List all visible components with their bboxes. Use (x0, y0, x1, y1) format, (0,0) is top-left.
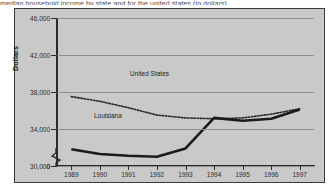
x-axis-tick (128, 166, 129, 170)
y-axis-tick-label: 38,000 (30, 89, 50, 96)
y-axis-origin-label: 0 (46, 163, 50, 170)
y-axis-tick (51, 166, 57, 167)
series-label-united-states: United States (130, 70, 169, 78)
x-axis-tick (157, 166, 158, 170)
y-axis-tick-label: 34,000 (30, 126, 50, 133)
cut-off-caption-text: median household income by state and for… (0, 0, 332, 5)
y-axis-tick (51, 92, 57, 93)
x-axis-tick (71, 166, 72, 170)
y-axis-title: Dollars (12, 46, 19, 71)
x-axis-tick-label: 1994 (207, 171, 221, 179)
x-axis-tick-label: 1997 (292, 171, 306, 179)
x-axis-tick-label: 1992 (150, 171, 164, 179)
y-axis-tick (51, 55, 57, 56)
y-axis-tick (51, 129, 57, 130)
chart-panel: 30,00034,00038,00042,00046,0000 Dollars … (14, 8, 325, 183)
x-axis-tick (243, 166, 244, 170)
x-axis-tick-label: 1990 (93, 171, 107, 179)
y-axis-tick-label: 42,000 (30, 52, 50, 59)
x-axis-tick-label: 1989 (64, 171, 78, 179)
chart-page: median household income by state and for… (0, 0, 332, 195)
y-axis-tick-label: 46,000 (30, 15, 50, 22)
gridline (57, 55, 314, 56)
x-axis-tick (271, 166, 272, 170)
gridline (57, 129, 314, 130)
x-axis-tick (100, 166, 101, 170)
gridline (57, 92, 314, 93)
y-axis-label-group: 30,00034,00038,00042,00046,0000 (15, 9, 50, 184)
series-label-louisiana: Louisiana (94, 112, 122, 120)
plot-area (57, 18, 314, 166)
gridline (57, 18, 314, 19)
x-axis-tick-label: 1991 (121, 171, 135, 179)
x-axis-tick-label: 1996 (264, 171, 278, 179)
y-axis-tick (51, 18, 57, 19)
x-axis-tick-label: 1995 (235, 171, 249, 179)
x-axis-tick-label: 1993 (178, 171, 192, 179)
x-axis-tick (186, 166, 187, 170)
x-axis-tick (214, 166, 215, 170)
x-axis-tick (300, 166, 301, 170)
